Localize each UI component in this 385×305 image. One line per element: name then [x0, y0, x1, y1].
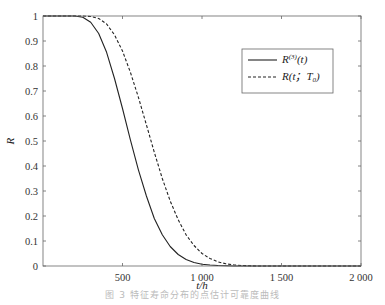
legend: R(3)(t)R(t；T0) — [242, 49, 333, 93]
y-tick-label: 0.1 — [25, 236, 38, 247]
y-tick-label: 0.4 — [25, 161, 39, 172]
y-axis-label: R — [4, 137, 16, 145]
y-tick-label: 1 — [33, 11, 38, 22]
x-tick-label: 500 — [115, 272, 131, 283]
y-tick-label: 0 — [33, 261, 38, 272]
figure-caption: 图 3 特征寿命分布的点估计可靠度曲线 — [0, 288, 385, 301]
y-tick-label: 0.3 — [25, 186, 38, 197]
y-tick-label: 0.8 — [25, 61, 38, 72]
x-tick-label: 2 000 — [349, 272, 373, 283]
y-tick-label: 0.5 — [25, 136, 38, 147]
reliability-chart: 00.10.20.30.40.50.60.70.80.915001 0001 5… — [0, 0, 385, 305]
x-tick-label: 1 500 — [270, 272, 294, 283]
y-tick-label: 0.7 — [25, 86, 38, 97]
y-tick-label: 0.2 — [25, 211, 38, 222]
y-tick-label: 0.9 — [25, 36, 38, 47]
y-tick-label: 0.6 — [25, 111, 38, 122]
